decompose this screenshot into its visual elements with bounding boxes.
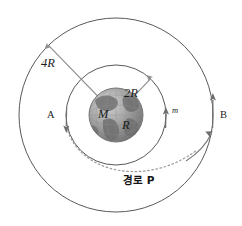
label-point-a: A <box>47 110 55 121</box>
label-point-b: B <box>220 110 227 121</box>
label-outer-radius: 4R <box>41 57 55 70</box>
label-central-mass: M <box>98 108 108 121</box>
label-satellite-mass: m <box>172 106 178 115</box>
orbit-transfer-diagram: 4R 2R M R m A B 경로 P <box>0 0 242 226</box>
label-inner-radius: 2R <box>124 87 138 100</box>
label-transfer-path: 경로 P <box>123 175 154 186</box>
label-planet-radius: R <box>122 119 130 132</box>
diagram-canvas <box>0 0 242 226</box>
